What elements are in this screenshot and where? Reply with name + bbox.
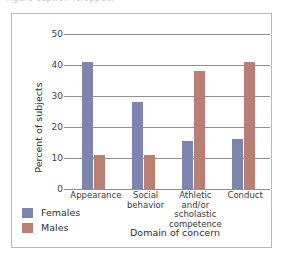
bar-females (82, 62, 93, 189)
y-axis-title: Percent of subjects (31, 62, 45, 192)
y-axis-tick-label: 10 (52, 153, 63, 163)
chart-legend: FemalesMales (22, 205, 80, 235)
y-axis-tick-label: 30 (52, 91, 63, 101)
y-axis-tick-label: 20 (52, 122, 63, 132)
bar-females (232, 139, 243, 189)
bar-males (194, 71, 205, 189)
y-axis-tick-mark (64, 65, 71, 66)
cropped-caption-remnant: Figure caption (cropped) (0, 0, 284, 9)
legend-swatch (22, 208, 33, 218)
bar-group (132, 34, 155, 189)
y-axis-title-text: Percent of subjects (33, 82, 44, 172)
bar-group (82, 34, 105, 189)
bar-males (144, 155, 155, 189)
y-axis-tick-label: 0 (57, 184, 63, 194)
y-axis-tick-mark (64, 158, 71, 159)
legend-swatch (22, 223, 33, 233)
x-axis-category-label: Conduct (214, 191, 276, 201)
legend-label: Males (41, 222, 68, 233)
y-axis-tick-mark (64, 96, 71, 97)
y-axis-tick-label: 40 (52, 60, 63, 70)
x-axis-title: Domain of concern (100, 227, 250, 238)
bar-group (232, 34, 255, 189)
legend-label: Females (41, 207, 80, 218)
bar-females (182, 141, 193, 189)
y-axis-tick-label: 50 (52, 29, 63, 39)
bar-males (94, 155, 105, 189)
y-axis-tick-mark (64, 34, 71, 35)
legend-item: Females (22, 205, 80, 220)
figure-frame: Percent of subjects 01020304050Appearanc… (11, 13, 272, 248)
y-axis-tick-mark (64, 127, 71, 128)
bar-males (244, 62, 255, 189)
legend-item: Males (22, 220, 80, 235)
bar-group (182, 34, 205, 189)
plot-area: 01020304050AppearanceSocial behaviorAthl… (71, 34, 270, 189)
bar-females (132, 102, 143, 189)
cropped-caption-text: Figure caption (cropped) (6, 0, 115, 3)
